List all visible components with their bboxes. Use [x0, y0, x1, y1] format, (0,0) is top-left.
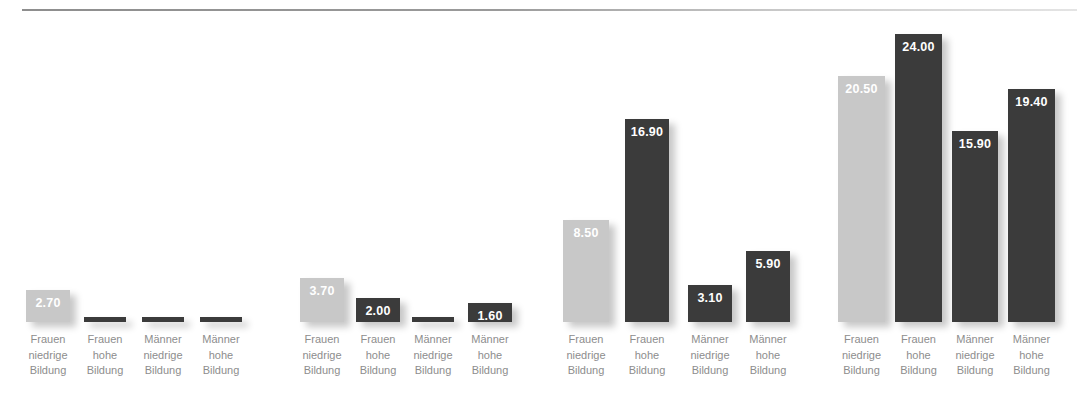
bar-category-label: Frauen niedrige Bildung [555, 332, 617, 379]
bar-category-label: Männer hohe Bildung [460, 332, 520, 379]
bar[interactable]: 3.70 [300, 278, 344, 322]
bar-category-label: Männer hohe Bildung [192, 332, 250, 379]
bar-value-label: 3.10 [688, 291, 732, 305]
bar-slot: 19.40Männer hohe Bildung [1008, 0, 1055, 398]
bar[interactable] [200, 317, 242, 322]
bar-category-label: Frauen niedrige Bildung [830, 332, 893, 379]
bar-category-label: Männer hohe Bildung [738, 332, 798, 379]
bar-category-label: Männer niedrige Bildung [404, 332, 462, 379]
bar-value-label: 2.70 [26, 296, 70, 310]
bar-slot: Männer niedrige Bildung [412, 0, 454, 398]
bar-slot: 5.90Männer hohe Bildung [746, 0, 790, 398]
bar-value-label: 8.50 [563, 226, 609, 240]
bar-slot: 3.10Männer niedrige Bildung [688, 0, 732, 398]
bar-slot: Männer hohe Bildung [200, 0, 242, 398]
bar-category-label: Männer hohe Bildung [1000, 332, 1063, 379]
bar[interactable] [84, 317, 126, 322]
bar[interactable]: 24.00 [895, 34, 942, 322]
bar-slot: 2.70Frauen niedrige Bildung [26, 0, 70, 398]
bar-slot: 8.50Frauen niedrige Bildung [563, 0, 609, 398]
bar-slot: 20.50Frauen niedrige Bildung [838, 0, 885, 398]
bar[interactable]: 20.50 [838, 76, 885, 322]
bar-category-label: Frauen hohe Bildung [887, 332, 950, 379]
bar-value-label: 2.00 [356, 304, 400, 318]
bar[interactable]: 15.90 [952, 131, 998, 322]
bar-value-label: 15.90 [952, 137, 998, 151]
bar-slot: 1.60Männer hohe Bildung [468, 0, 512, 398]
bar[interactable]: 1.60 [468, 303, 512, 322]
bar-value-label: 20.50 [838, 82, 885, 96]
bar-value-label: 1.60 [468, 309, 512, 323]
bar[interactable]: 2.00 [356, 298, 400, 322]
bar-slot: 16.90Frauen hohe Bildung [625, 0, 669, 398]
bar[interactable]: 5.90 [746, 251, 790, 322]
bar[interactable]: 16.90 [625, 119, 669, 322]
bar-category-label: Frauen niedrige Bildung [292, 332, 352, 379]
bar[interactable]: 8.50 [563, 220, 609, 322]
bar-chart: 2.70Frauen niedrige BildungFrauen hohe B… [0, 0, 1087, 398]
bar-category-label: Männer niedrige Bildung [680, 332, 740, 379]
bar-slot: 15.90Männer niedrige Bildung [952, 0, 998, 398]
bar-slot: Frauen hohe Bildung [84, 0, 126, 398]
bar[interactable] [142, 317, 184, 322]
bar-value-label: 3.70 [300, 284, 344, 298]
bar-category-label: Frauen hohe Bildung [76, 332, 134, 379]
bar-category-label: Männer niedrige Bildung [944, 332, 1006, 379]
bar-slot: Männer niedrige Bildung [142, 0, 184, 398]
bar[interactable]: 3.10 [688, 285, 732, 322]
bar-slot: 24.00Frauen hohe Bildung [895, 0, 942, 398]
bar[interactable] [412, 317, 454, 322]
bar-category-label: Frauen hohe Bildung [617, 332, 677, 379]
bar-value-label: 19.40 [1008, 95, 1055, 109]
bar-value-label: 24.00 [895, 40, 942, 54]
bar-category-label: Frauen niedrige Bildung [18, 332, 78, 379]
bar[interactable]: 19.40 [1008, 89, 1055, 322]
bar-category-label: Männer niedrige Bildung [134, 332, 192, 379]
bar-value-label: 16.90 [625, 125, 669, 139]
bar-category-label: Frauen hohe Bildung [348, 332, 408, 379]
bar-slot: 3.70Frauen niedrige Bildung [300, 0, 344, 398]
plot-area: 2.70Frauen niedrige BildungFrauen hohe B… [0, 0, 1087, 398]
bar-slot: 2.00Frauen hohe Bildung [356, 0, 400, 398]
bar[interactable]: 2.70 [26, 290, 70, 322]
bar-value-label: 5.90 [746, 257, 790, 271]
